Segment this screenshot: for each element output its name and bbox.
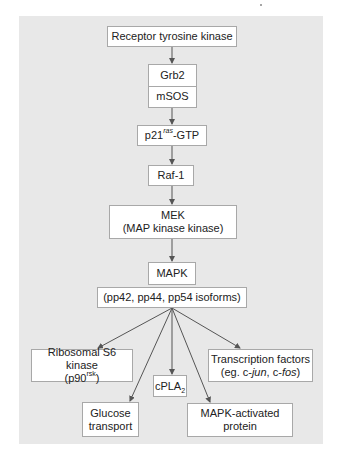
node-label-line2: (eg. c-jun, c-fos): [221, 366, 301, 379]
node-glucose-transport: Glucose transport: [82, 402, 139, 437]
node-mek: MEK (MAP kinase kinase): [109, 205, 237, 239]
node-label-line1: Ribosomal S6 kinase: [32, 346, 132, 372]
node-receptor-tyrosine-kinase: Receptor tyrosine kinase: [107, 26, 237, 47]
node-label: MAPK: [156, 267, 187, 280]
arrow-mapk-to-rsk: [98, 308, 172, 348]
node-grb2: Grb2: [149, 65, 196, 86]
node-label: (pp42, pp44, pp54 isoforms): [103, 291, 241, 304]
node-label: mSOS: [156, 90, 188, 103]
node-label: Grb2: [160, 69, 184, 82]
node-p21-ras-gtp: p21ras-GTP: [137, 125, 207, 146]
node-raf1: Raf-1: [148, 165, 194, 186]
node-label-line1: MEK: [161, 209, 185, 222]
node-label: p21ras-GTP: [145, 129, 199, 142]
node-cpla2: cPLA2: [153, 375, 187, 397]
node-grb2-msos: Grb2 mSOS: [148, 64, 197, 108]
node-label: Receptor tyrosine kinase: [111, 30, 232, 43]
node-mapk: MAPK: [148, 262, 196, 285]
node-label-line2: (MAP kinase kinase): [123, 222, 224, 235]
node-label: cPLA2: [155, 380, 185, 393]
arrow-mapk-to-tf: [172, 308, 240, 348]
node-label-line1: Glucose: [90, 407, 130, 420]
node-label-line2: transport: [89, 420, 132, 433]
node-mapk-isoforms: (pp42, pp44, pp54 isoforms): [97, 287, 247, 308]
node-ribosomal-s6-kinase: Ribosomal S6 kinase (p90rsk): [31, 349, 133, 382]
node-msos: mSOS: [149, 86, 196, 108]
node-label: Raf-1: [158, 169, 185, 182]
node-label-line2: protein: [223, 420, 257, 433]
node-label-line1: Transcription factors: [211, 353, 310, 366]
node-label-line1: MAPK-activated: [201, 407, 280, 420]
node-label-line2: (p90rsk): [64, 372, 99, 385]
node-mapk-activated-protein: MAPK-activated protein: [187, 403, 293, 437]
node-transcription-factors: Transcription factors (eg. c-jun, c-fos): [208, 349, 313, 382]
